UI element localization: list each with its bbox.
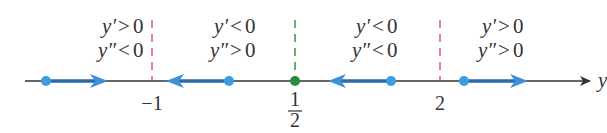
svg-text:>: > [118, 14, 130, 38]
axis-label-y: y [596, 68, 607, 92]
region-1-conditions: y′ > 0 y″ < 0 [96, 14, 144, 62]
svg-text:y″: y″ [96, 38, 116, 62]
svg-text:0: 0 [513, 38, 524, 62]
flow-arrow-left-3 [328, 74, 391, 88]
region-3-conditions: y′ < 0 y″ < 0 [350, 14, 398, 62]
svg-text:y′: y′ [212, 14, 228, 38]
start-dot-4 [459, 76, 469, 86]
start-dot-2 [224, 76, 234, 86]
svg-text:y′: y′ [354, 14, 370, 38]
start-dot-1 [41, 76, 51, 86]
tick-label-two: 2 [435, 92, 445, 114]
svg-text:>: > [498, 38, 510, 62]
phase-line-diagram: y −1 1 2 2 y′ > 0 y″ < 0 y′ < 0 y″ > 0 y… [0, 0, 607, 133]
svg-text:y′: y′ [480, 14, 496, 38]
svg-text:<: < [372, 38, 384, 62]
start-dot-3 [386, 76, 396, 86]
svg-text:y′: y′ [100, 14, 116, 38]
svg-text:0: 0 [513, 14, 524, 38]
flow-arrow-right-1 [46, 74, 108, 88]
svg-text:0: 0 [245, 38, 256, 62]
equilibrium-dot-one-half [290, 76, 300, 86]
region-2-conditions: y′ < 0 y″ > 0 [208, 14, 256, 62]
svg-text:y″: y″ [208, 38, 228, 62]
svg-text:<: < [230, 14, 242, 38]
svg-text:0: 0 [133, 14, 144, 38]
svg-text:0: 0 [245, 14, 256, 38]
svg-text:0: 0 [387, 38, 398, 62]
region-4-conditions: y′ > 0 y″ > 0 [476, 14, 524, 62]
svg-text:y″: y″ [350, 38, 370, 62]
flow-arrow-right-4 [464, 74, 528, 88]
svg-text:0: 0 [387, 14, 398, 38]
tick-label-minus-one: −1 [141, 92, 162, 114]
flow-arrow-left-2 [166, 74, 229, 88]
svg-text:0: 0 [133, 38, 144, 62]
svg-text:y″: y″ [476, 38, 496, 62]
svg-text:>: > [498, 14, 510, 38]
svg-text:>: > [230, 38, 242, 62]
svg-text:<: < [372, 14, 384, 38]
tick-label-one-half-denominator: 2 [290, 109, 300, 131]
svg-text:<: < [118, 38, 130, 62]
tick-label-one-half-numerator: 1 [290, 88, 300, 110]
